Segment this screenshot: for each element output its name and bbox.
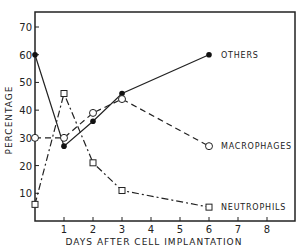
series-neutrophils: NEUTROPHILS xyxy=(32,91,286,213)
x-tick-label: 4 xyxy=(148,224,154,235)
open-square-marker xyxy=(61,91,67,97)
y-tick-label: 20 xyxy=(19,161,32,172)
x-tick-label: 3 xyxy=(119,224,125,235)
series-label: MACROPHAGES xyxy=(221,142,292,151)
y-tick-label: 60 xyxy=(19,50,32,61)
open-circle-marker xyxy=(119,96,126,103)
open-square-marker xyxy=(119,188,125,194)
open-circle-marker xyxy=(61,134,68,141)
open-circle-marker xyxy=(90,109,97,116)
y-tick-label: 30 xyxy=(19,133,32,144)
x-axis-label: DAYS AFTER CELL IMPLANTATION xyxy=(66,237,243,247)
x-tick-label: 8 xyxy=(264,224,270,235)
y-tick-label: 50 xyxy=(19,77,32,88)
x-tick-label: 6 xyxy=(206,224,212,235)
open-square-marker xyxy=(206,204,212,210)
y-tick-label: 70 xyxy=(19,22,32,33)
open-square-marker xyxy=(90,160,96,166)
y-tick-label: 10 xyxy=(19,188,32,199)
filled-circle-marker xyxy=(32,52,38,58)
line-chart: 1020304050607012345678DAYS AFTER CELL IM… xyxy=(0,0,305,251)
y-axis-label: PERCENTAGE xyxy=(4,85,14,154)
x-tick-label: 1 xyxy=(61,224,67,235)
filled-circle-marker xyxy=(206,52,212,58)
series-macrophages: MACROPHAGES xyxy=(32,96,292,152)
open-square-marker xyxy=(32,201,38,207)
series-label: NEUTROPHILS xyxy=(221,203,286,212)
y-tick-label: 40 xyxy=(19,105,32,116)
open-circle-marker xyxy=(32,134,39,141)
series-label: OTHERS xyxy=(221,51,259,60)
x-tick-label: 2 xyxy=(90,224,96,235)
x-tick-label: 7 xyxy=(235,224,241,235)
open-circle-marker xyxy=(206,143,213,150)
filled-circle-marker xyxy=(61,143,67,149)
x-tick-label: 5 xyxy=(177,224,183,235)
filled-circle-marker xyxy=(90,118,96,124)
